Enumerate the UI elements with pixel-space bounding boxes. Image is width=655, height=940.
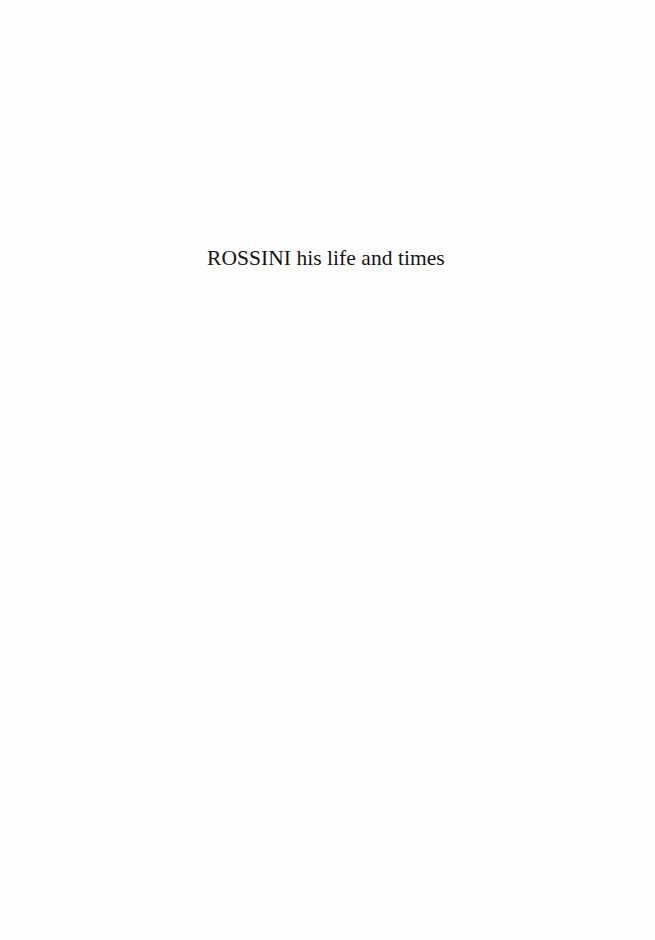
book-title: ROSSINI his life and times [207,248,445,270]
book-half-title-page: ROSSINI his life and times [0,0,655,940]
